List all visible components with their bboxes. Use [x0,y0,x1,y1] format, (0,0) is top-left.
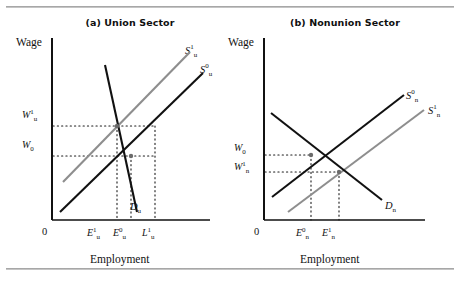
panel-b-equilibrium-point-initial [309,153,313,157]
panel-b-supply-n-1-curve [288,110,424,212]
panel-b-supply-n-0-curve [272,95,404,197]
panel-a-demand-u-curve [105,65,137,212]
panel-b-guide-lines [265,155,339,220]
figure-container: (a) Union Sector Wage Employment 0 W1u W… [0,0,460,283]
panel-a-equilibrium-point-union [115,124,119,128]
panel-b-equilibrium-point-new [337,170,341,174]
figure-graphics [0,0,460,283]
panel-b-axes [264,38,425,220]
panel-a-equilibrium-point-competitive [129,154,133,158]
panel-a-axes [52,38,210,220]
